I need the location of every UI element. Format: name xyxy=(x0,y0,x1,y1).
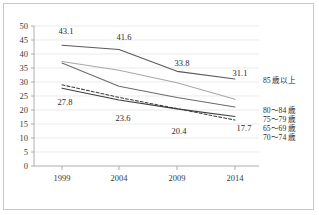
data-label-85plus-2014: 31.1 xyxy=(233,68,248,78)
data-label-85plus-1999: 43.1 xyxy=(59,26,74,36)
data-label-65to69-2014: 17.7 xyxy=(237,123,252,133)
y-label-5: 5 xyxy=(24,147,28,157)
y-label-30: 30 xyxy=(20,77,29,87)
data-label-65to69-2004: 23.6 xyxy=(116,113,131,123)
legend-item-70to74: 70～74 歳 xyxy=(263,131,296,142)
x-label-2014: 2014 xyxy=(227,173,245,183)
data-value-labels: 43.1 41.6 33.8 31.1 27.8 23.6 20.4 17.7 xyxy=(58,26,252,136)
y-tick-marks xyxy=(31,26,34,166)
x-label-1999: 1999 xyxy=(54,173,71,183)
y-label-20: 20 xyxy=(20,105,29,115)
y-label-10: 10 xyxy=(20,133,29,143)
y-label-25: 25 xyxy=(20,91,29,101)
y-label-15: 15 xyxy=(20,119,29,129)
x-tick-marks xyxy=(62,166,235,170)
legend-item-85plus: 85 歳以上 xyxy=(263,74,297,85)
x-label-2004: 2004 xyxy=(111,173,129,183)
x-axis-labels: 1999 2004 2009 2014 xyxy=(54,173,245,183)
data-label-85plus-2009: 33.8 xyxy=(175,58,190,68)
x-label-2009: 2009 xyxy=(169,173,186,183)
data-label-85plus-2004: 41.6 xyxy=(117,32,132,42)
data-label-65to69-2009: 20.4 xyxy=(172,126,188,136)
y-label-45: 45 xyxy=(20,35,29,45)
series-lines xyxy=(62,45,235,120)
chart-frame: 50 45 40 35 30 25 20 15 10 5 0 1999 2004… xyxy=(3,3,314,210)
data-label-65to69-1999: 27.8 xyxy=(58,97,73,107)
y-label-0: 0 xyxy=(24,161,28,171)
y-label-40: 40 xyxy=(20,49,29,59)
y-axis-labels: 50 45 40 35 30 25 20 15 10 5 0 xyxy=(20,21,29,171)
y-label-35: 35 xyxy=(20,63,29,73)
y-label-50: 50 xyxy=(20,21,29,31)
series-line-2 xyxy=(62,63,235,107)
